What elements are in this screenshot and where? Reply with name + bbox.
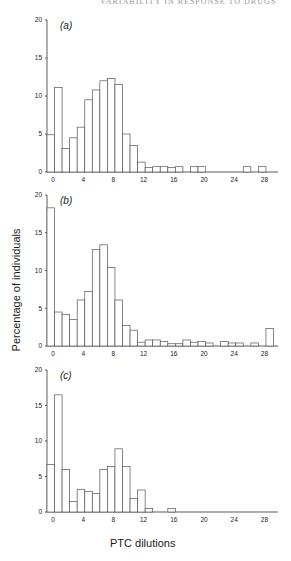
svg-text:4: 4 — [81, 516, 85, 523]
histogram-bar — [47, 135, 55, 172]
svg-text:28: 28 — [261, 176, 269, 183]
histogram-bar — [115, 449, 123, 512]
histogram-bar — [228, 343, 236, 346]
histogram-bar — [55, 88, 63, 172]
histogram-bar — [266, 329, 274, 346]
histogram-bar — [70, 501, 78, 512]
histogram-bar — [138, 162, 146, 172]
histogram-panel-a: 051015200481216202428(a) — [35, 16, 278, 183]
svg-text:20: 20 — [200, 350, 208, 357]
histogram-bar — [107, 467, 115, 512]
histogram-bar — [92, 494, 100, 512]
histogram-bar — [160, 341, 168, 346]
histogram-bar — [198, 167, 206, 172]
histogram-bar — [77, 300, 85, 346]
histogram-bar — [70, 320, 78, 346]
histogram-bar — [47, 464, 55, 512]
svg-text:8: 8 — [112, 516, 116, 523]
svg-text:10: 10 — [35, 267, 43, 274]
svg-text:10: 10 — [35, 92, 43, 99]
y-axis-label: Percentage of individuals — [10, 229, 22, 352]
histogram-bar — [236, 343, 244, 346]
histogram-bar — [138, 342, 146, 346]
svg-text:12: 12 — [140, 516, 148, 523]
histogram-bar — [243, 167, 251, 172]
svg-text:5: 5 — [38, 473, 42, 480]
histogram-bar — [190, 167, 198, 172]
svg-text:0: 0 — [38, 342, 42, 349]
svg-text:16: 16 — [170, 516, 178, 523]
svg-text:16: 16 — [170, 350, 178, 357]
histogram-bar — [221, 341, 229, 346]
histogram-bar — [100, 81, 108, 172]
panel-label: (b) — [60, 195, 72, 206]
svg-text:24: 24 — [231, 176, 239, 183]
svg-text:10: 10 — [35, 437, 43, 444]
histogram-bar — [198, 341, 206, 346]
svg-text:20: 20 — [35, 191, 43, 198]
svg-text:4: 4 — [81, 350, 85, 357]
histogram-bar — [55, 395, 63, 512]
svg-text:0: 0 — [38, 508, 42, 515]
histogram-bar — [190, 342, 198, 346]
svg-text:0: 0 — [51, 176, 55, 183]
svg-text:0: 0 — [51, 516, 55, 523]
svg-text:12: 12 — [140, 350, 148, 357]
histogram-bar — [115, 300, 123, 346]
panel-label: (a) — [60, 20, 72, 31]
histogram-bar — [107, 79, 115, 172]
histogram-bar — [206, 343, 214, 346]
histogram-bar — [130, 499, 138, 512]
svg-text:28: 28 — [261, 350, 269, 357]
svg-text:28: 28 — [261, 516, 269, 523]
histogram-bar — [123, 467, 131, 512]
histogram-panel-b: 051015200481216202428(b) — [35, 191, 278, 357]
svg-text:15: 15 — [35, 402, 43, 409]
histogram-bar — [145, 508, 153, 512]
histogram-bar — [100, 245, 108, 346]
histogram-bar — [130, 145, 138, 172]
histogram-bar — [47, 208, 55, 346]
svg-text:8: 8 — [112, 176, 116, 183]
histogram-bar — [85, 292, 93, 346]
histogram-bar — [62, 148, 70, 172]
svg-text:0: 0 — [51, 350, 55, 357]
histogram-bar — [62, 314, 70, 346]
histogram-bar — [168, 344, 176, 346]
histogram-bar — [100, 469, 108, 512]
svg-text:15: 15 — [35, 229, 43, 236]
svg-text:20: 20 — [200, 176, 208, 183]
histogram-bar — [107, 267, 115, 346]
histogram-bar — [123, 326, 131, 346]
histogram-bar — [145, 340, 153, 346]
histogram-bar — [153, 167, 161, 172]
histogram-bar — [62, 469, 70, 512]
svg-text:20: 20 — [35, 366, 43, 373]
histogram-bar — [168, 508, 176, 512]
histogram-bar — [123, 134, 131, 172]
histogram-bar — [175, 344, 183, 346]
svg-text:8: 8 — [112, 350, 116, 357]
histogram-bar — [160, 167, 168, 172]
svg-text:24: 24 — [231, 350, 239, 357]
histogram-bar — [55, 312, 63, 346]
histogram-bar — [153, 340, 161, 346]
histogram-panels: 051015200481216202428(a)0510152004812162… — [0, 0, 291, 561]
histogram-bar — [130, 330, 138, 346]
histogram-bar — [115, 85, 123, 172]
x-axis-label: PTC dilutions — [110, 537, 175, 549]
svg-text:0: 0 — [38, 168, 42, 175]
svg-text:20: 20 — [200, 516, 208, 523]
svg-text:20: 20 — [35, 16, 43, 23]
histogram-bar — [77, 489, 85, 512]
histogram-bar — [258, 167, 266, 172]
svg-text:12: 12 — [140, 176, 148, 183]
histogram-bar — [92, 249, 100, 346]
histogram-bar — [77, 127, 85, 172]
histogram-bar — [145, 167, 153, 172]
panel-label: (c) — [60, 370, 72, 381]
histogram-bar — [85, 100, 93, 172]
histogram-bar — [70, 138, 78, 172]
histogram-bar — [251, 343, 259, 346]
svg-text:24: 24 — [231, 516, 239, 523]
